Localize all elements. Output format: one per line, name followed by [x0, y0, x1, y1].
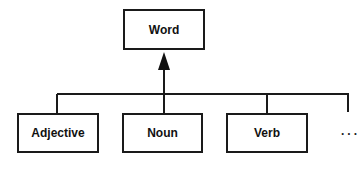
adjective-box: Adjective — [17, 113, 99, 153]
arrowhead-icon — [158, 52, 170, 70]
word-box: Word — [123, 9, 205, 50]
verb-box: Verb — [226, 113, 308, 153]
noun-label: Noun — [147, 126, 178, 140]
noun-box: Noun — [122, 113, 203, 153]
word-label: Word — [149, 23, 179, 37]
adjective-label: Adjective — [31, 126, 84, 140]
verb-label: Verb — [254, 126, 280, 140]
more-ellipsis: ... — [341, 124, 360, 138]
